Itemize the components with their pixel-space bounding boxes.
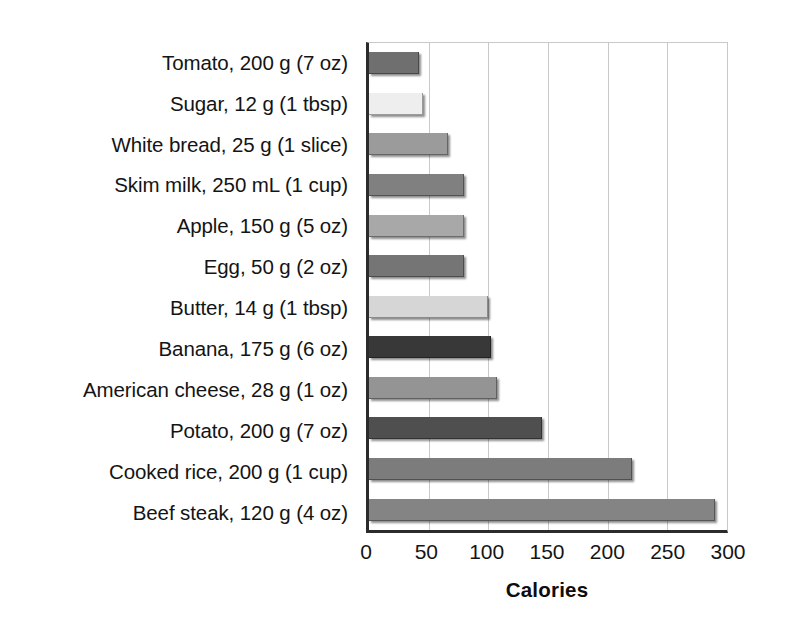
category-label-row: Butter, 14 g (1 tbsp) <box>0 288 356 329</box>
bar-series <box>369 43 727 530</box>
bar-row <box>369 205 727 246</box>
bar-row <box>369 368 727 409</box>
bar <box>369 93 423 115</box>
x-tick-label: 100 <box>469 540 504 564</box>
bar <box>369 417 542 439</box>
category-axis-labels: Tomato, 200 g (7 oz) Sugar, 12 g (1 tbsp… <box>0 42 356 533</box>
bar-row <box>369 124 727 165</box>
bar <box>369 215 464 237</box>
x-tick-label: 0 <box>360 540 372 564</box>
category-label-row: Egg, 50 g (2 oz) <box>0 247 356 288</box>
gridline <box>727 43 728 530</box>
category-label-row: Tomato, 200 g (7 oz) <box>0 42 356 83</box>
category-label-row: Sugar, 12 g (1 tbsp) <box>0 83 356 124</box>
x-tick-label: 250 <box>650 540 685 564</box>
bar <box>369 296 488 318</box>
bar-row <box>369 286 727 327</box>
category-label: Skim milk, 250 mL (1 cup) <box>114 174 348 196</box>
bar-row <box>369 84 727 125</box>
bar-row <box>369 449 727 490</box>
category-label: Potato, 200 g (7 oz) <box>170 420 348 442</box>
bar <box>369 255 464 277</box>
category-label-row: American cheese, 28 g (1 oz) <box>0 369 356 410</box>
bar-row <box>369 327 727 368</box>
bar-row <box>369 43 727 84</box>
bar <box>369 174 464 196</box>
bar <box>369 458 632 480</box>
x-tick-label: 200 <box>590 540 625 564</box>
x-axis-title: Calories <box>366 578 728 602</box>
category-label-row: Cooked rice, 200 g (1 cup) <box>0 451 356 492</box>
category-label: Egg, 50 g (2 oz) <box>204 256 348 278</box>
category-label: Butter, 14 g (1 tbsp) <box>170 297 348 319</box>
x-axis-tick-labels: 050100150200250300 <box>366 540 728 570</box>
bar-row <box>369 246 727 287</box>
bar <box>369 377 497 399</box>
category-label: White bread, 25 g (1 slice) <box>111 134 348 156</box>
category-label-row: Skim milk, 250 mL (1 cup) <box>0 165 356 206</box>
category-label: Tomato, 200 g (7 oz) <box>162 52 348 74</box>
bar <box>369 52 419 74</box>
category-label: American cheese, 28 g (1 oz) <box>83 379 348 401</box>
category-label-row: White bread, 25 g (1 slice) <box>0 124 356 165</box>
bar-row <box>369 408 727 449</box>
plot-area <box>366 42 728 533</box>
category-label-row: Potato, 200 g (7 oz) <box>0 410 356 451</box>
calorie-bar-chart: Tomato, 200 g (7 oz) Sugar, 12 g (1 tbsp… <box>0 0 785 633</box>
category-label: Banana, 175 g (6 oz) <box>159 338 348 360</box>
category-label: Beef steak, 120 g (4 oz) <box>133 502 348 524</box>
x-tick-label: 300 <box>710 540 745 564</box>
x-tick-label: 50 <box>415 540 438 564</box>
bar <box>369 336 491 358</box>
category-label-row: Beef steak, 120 g (4 oz) <box>0 492 356 533</box>
bar <box>369 499 715 521</box>
category-label: Apple, 150 g (5 oz) <box>177 215 348 237</box>
bar-row <box>369 489 727 530</box>
x-tick-label: 150 <box>529 540 564 564</box>
category-label: Cooked rice, 200 g (1 cup) <box>109 461 348 483</box>
bar-row <box>369 165 727 206</box>
category-label-row: Apple, 150 g (5 oz) <box>0 206 356 247</box>
bar <box>369 133 448 155</box>
category-label-row: Banana, 175 g (6 oz) <box>0 328 356 369</box>
category-label: Sugar, 12 g (1 tbsp) <box>170 93 348 115</box>
